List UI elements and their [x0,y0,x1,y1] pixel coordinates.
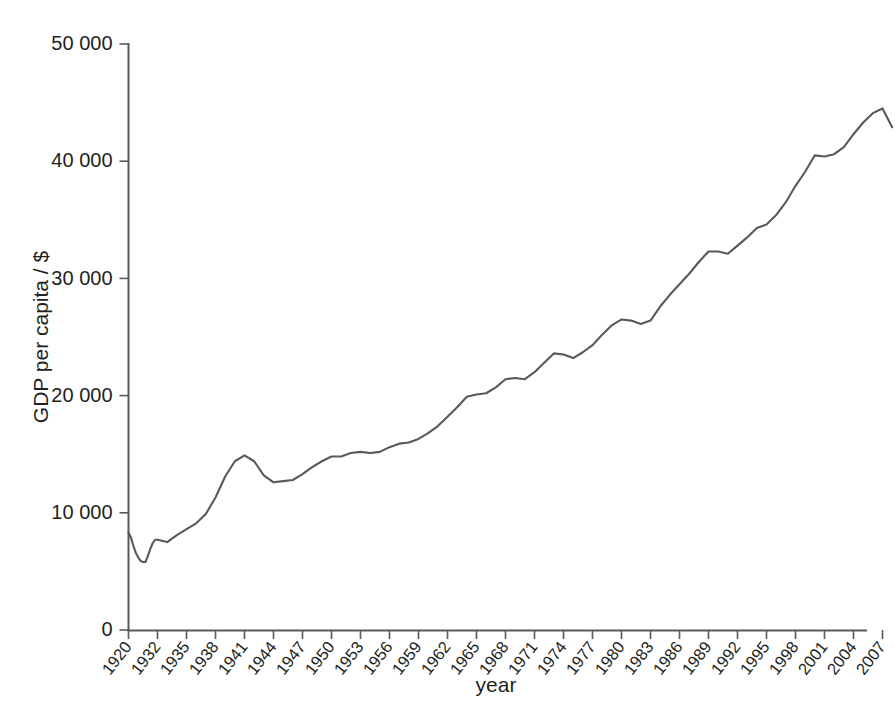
x-tick-label: 2004 [823,638,860,678]
x-tick-label: 2007 [852,638,889,678]
x-tick-label: 1959 [388,638,425,678]
gdp-per-capita-chart: 010 00020 00030 00040 00050 000 GDP per … [0,0,895,723]
y-tick-label: 50 000 [51,32,112,54]
x-tick-label: 1986 [649,638,686,678]
y-tick-label: 40 000 [51,149,112,171]
y-tick-label: 0 [101,618,112,640]
x-tick-label: 1941 [214,638,251,678]
x-tick-label: 1953 [330,638,367,678]
x-tick-label: 1971 [504,638,541,678]
y-tick-label: 10 000 [51,501,112,523]
x-tick-label: 1983 [620,638,657,678]
x-tick-label: 1968 [475,638,512,678]
x-tick-label: 1995 [736,638,773,678]
chart-canvas: 010 00020 00030 00040 00050 000 GDP per … [0,0,895,723]
x-tick-label: 1977 [562,638,599,678]
x-tick-label: 1989 [678,638,715,678]
x-tick-label: 1974 [533,638,570,678]
x-axis-title: year [476,673,517,696]
y-tick-marks [120,44,129,630]
x-tick-label: 1992 [707,638,744,678]
y-tick-label: 30 000 [51,267,112,289]
x-tick-label: 1944 [243,638,280,678]
gdp-series-line [129,108,893,562]
x-tick-label: 1932 [127,638,164,678]
y-axis-title: GDP per capita / $ [29,250,52,423]
x-axis: 1920193219351938194119441947195019531956… [98,630,889,696]
x-tick-label: 1998 [765,638,802,678]
x-tick-label: 1980 [591,638,628,678]
x-tick-label: 1965 [446,638,483,678]
x-tick-label: 1962 [417,638,454,678]
x-tick-label: 1935 [156,638,193,678]
y-tick-labels: 010 00020 00030 00040 00050 000 [51,32,112,640]
x-tick-label: 1956 [359,638,396,678]
x-tick-label: 1920 [98,638,135,678]
y-tick-label: 20 000 [51,384,112,406]
y-axis: 010 00020 00030 00040 00050 000 GDP per … [29,32,129,640]
x-tick-labels: 1920193219351938194119441947195019531956… [98,638,889,678]
x-tick-label: 2001 [794,638,831,678]
x-tick-label: 1950 [301,638,338,678]
x-tick-label: 1947 [272,638,309,678]
x-tick-label: 1938 [185,638,222,678]
